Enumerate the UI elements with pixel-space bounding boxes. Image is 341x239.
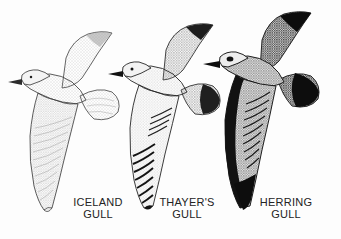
label-herring-line1: HERRING: [260, 196, 312, 208]
label-thayers-line1: THAYER'S: [159, 196, 214, 208]
herring-body-group: [203, 12, 319, 210]
thayers-eye: [131, 68, 134, 71]
label-herring-line2: GULL: [248, 209, 324, 221]
label-herring-gull: HERRING GULL: [248, 197, 324, 221]
illustration-plate: ICELAND GULL THAYER'S GULL HERRING GULL: [0, 0, 341, 239]
label-iceland-line2: GULL: [62, 209, 134, 221]
label-iceland-line1: ICELAND: [73, 196, 122, 208]
herring-eye-patch: [227, 57, 234, 62]
iceland-bill: [8, 79, 22, 85]
thayers-lower-wing: [130, 85, 179, 208]
iceland-lower-wing: [30, 93, 78, 210]
herring-bill: [203, 61, 220, 68]
iceland-eye: [30, 76, 33, 79]
thayers-bill: [108, 71, 123, 77]
label-thayers-line2: GULL: [148, 209, 226, 221]
label-thayers-gull: THAYER'S GULL: [148, 197, 226, 221]
label-iceland-gull: ICELAND GULL: [62, 197, 134, 221]
